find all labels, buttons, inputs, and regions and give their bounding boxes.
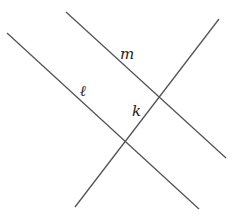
lines-figure: ℓ m k	[0, 0, 234, 221]
label-line-m: m	[120, 45, 134, 63]
label-line-l: ℓ	[80, 82, 86, 100]
line-l	[7, 33, 199, 209]
label-line-k: k	[132, 102, 141, 120]
line-m	[66, 12, 226, 158]
line-k	[75, 19, 219, 207]
diagram-canvas: ℓ m k	[0, 0, 234, 221]
